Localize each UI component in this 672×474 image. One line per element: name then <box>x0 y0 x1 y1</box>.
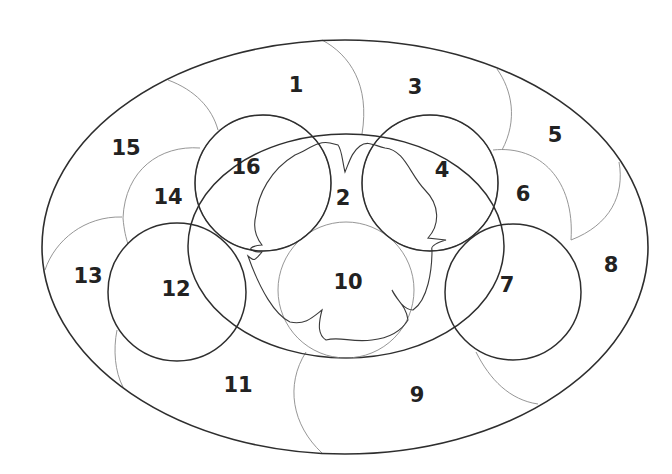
divider-13-11 <box>115 330 123 387</box>
region-label-1: 1 <box>289 73 304 97</box>
region-label-4: 4 <box>435 158 450 182</box>
divider-1-3 <box>322 40 364 134</box>
region-label-13: 13 <box>73 264 102 288</box>
region-label-15: 15 <box>111 136 140 160</box>
region-label-10: 10 <box>333 270 362 294</box>
thick-circles <box>108 115 581 361</box>
region-label-6: 6 <box>516 182 531 206</box>
divider-5-8 <box>571 162 620 240</box>
divider-14-12 <box>123 218 128 244</box>
numbered-region-diagram: 1 2 3 4 5 6 7 8 9 10 11 12 13 14 15 16 <box>0 0 672 474</box>
region-label-9: 9 <box>410 383 425 407</box>
region-label-16: 16 <box>231 155 260 179</box>
outer-ellipse <box>42 40 648 454</box>
inner-lobed-shape <box>248 142 446 340</box>
region-label-2: 2 <box>336 186 351 210</box>
outer-ring-dividers <box>45 40 620 453</box>
region-label-11: 11 <box>223 373 252 397</box>
region-label-5: 5 <box>548 123 563 147</box>
region-label-3: 3 <box>408 75 423 99</box>
region-label-12: 12 <box>161 277 190 301</box>
divider-1-15 <box>168 80 218 130</box>
divider-11-9 <box>294 352 322 453</box>
region-label-14: 14 <box>153 185 182 209</box>
divider-3-5 <box>497 69 511 150</box>
divider-13-15 <box>45 217 122 270</box>
region-label-8: 8 <box>604 253 619 277</box>
region-label-7: 7 <box>500 273 515 297</box>
